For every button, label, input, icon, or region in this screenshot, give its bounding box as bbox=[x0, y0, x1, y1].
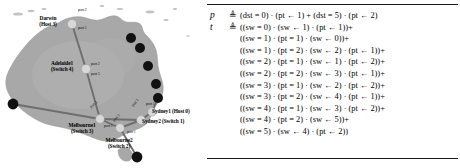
spacer-cell bbox=[226, 68, 240, 80]
port-label-sydney2-port-1: port 1 bbox=[146, 102, 155, 106]
equation-row-topology-cont: ((sw = 4) · (pt = 2) · (sw ← 5))+ bbox=[205, 114, 460, 126]
spacer-cell bbox=[226, 126, 240, 138]
topology-line-9: ((sw = 5) · (sw ← 4) · (pt ← 2)) bbox=[240, 126, 460, 138]
rule-top-divider bbox=[207, 4, 458, 5]
topology-line-0: ((sw = 0) · (sw ← 1) · (pt ← 1))+ bbox=[240, 22, 460, 34]
topology-line-5: ((sw = 3) · (pt = 1) · (sw ← 2) · (pt ← … bbox=[240, 80, 460, 92]
topology-line-7: ((sw = 4) · (pt = 1) · (sw ← 3) · (pt ← … bbox=[240, 103, 460, 115]
topology-line-4: ((sw = 2) · (pt = 2) · (sw ← 3) · (pt ← … bbox=[240, 68, 460, 80]
topology-line-6: ((sw = 3) · (pt = 2) · (sw ← 4) · (pt ← … bbox=[240, 91, 460, 103]
port-label-adelaide-port-2: port 2 bbox=[91, 62, 100, 66]
node-darwin bbox=[67, 19, 76, 28]
topology-symbol: t bbox=[205, 22, 226, 34]
map-panel: Darwin (Host 3) Adelaide1 (Switch 4) Mel… bbox=[0, 0, 205, 168]
spacer-cell bbox=[226, 103, 240, 115]
spacer-cell bbox=[226, 91, 240, 103]
node-melbourne2 bbox=[116, 124, 125, 133]
equation-row-topology-cont: ((sw = 3) · (pt = 1) · (sw ← 2) · (pt ← … bbox=[205, 80, 460, 92]
port-label-melbourne1-port-1: port 1 bbox=[104, 124, 113, 128]
spacer-cell bbox=[205, 103, 226, 115]
equation-row-topology-cont: ((sw = 2) · (pt = 2) · (sw ← 3) · (pt ← … bbox=[205, 68, 460, 80]
node-label-melbourne2: Melbourne2 (Switch 2) bbox=[94, 138, 144, 149]
spacer-cell bbox=[226, 45, 240, 57]
node-label-darwin: Darwin (Host 3) bbox=[28, 16, 68, 27]
topology-line-2: ((sw = 1) · (pt = 2) · (sw ← 2) · (pt ← … bbox=[240, 45, 460, 57]
node-label-sydney2-line1: Sydney2 bbox=[142, 118, 161, 124]
tasmania-landmass bbox=[118, 148, 132, 161]
spacer-cell bbox=[205, 68, 226, 80]
link-melbourne1-sydney2 bbox=[100, 119, 141, 120]
equation-row-policy: p ≜ (dst = 0) · (pt ← 1) + (dst = 5) · (… bbox=[205, 10, 460, 22]
port-label-darwin-port-2: port 2 bbox=[78, 8, 87, 12]
policy-defined-as: ≜ bbox=[226, 10, 240, 22]
node-label-sydney1-line1: Sydney1 bbox=[152, 108, 171, 114]
figure-root: Darwin (Host 3) Adelaide1 (Switch 4) Mel… bbox=[0, 0, 460, 168]
node-label-melbourne1: Melbourne1 (Switch 3) bbox=[58, 123, 106, 134]
policy-line-0: (dst = 0) · (pt ← 1) + (dst = 5) · (pt ←… bbox=[240, 10, 460, 22]
node-label-sydney2: Sydney2 (Switch 1) bbox=[142, 119, 204, 125]
topology-line-1: ((sw = 1) · (pt = 1) · (sw ← 0))+ bbox=[240, 33, 460, 45]
node-label-sydney2-line2: (Switch 1) bbox=[162, 118, 184, 124]
topology-line-8: ((sw = 4) · (pt = 2) · (sw ← 5))+ bbox=[240, 114, 460, 126]
equations-panel: p ≜ (dst = 0) · (pt ← 1) + (dst = 5) · (… bbox=[205, 0, 460, 168]
coast-dot-3 bbox=[143, 61, 153, 71]
spacer-cell bbox=[226, 33, 240, 45]
coast-dot-1 bbox=[126, 33, 136, 43]
equation-row-topology: t ≜ ((sw = 0) · (sw ← 1) · (pt ← 1))+ bbox=[205, 22, 460, 34]
equations-table: p ≜ (dst = 0) · (pt ← 1) + (dst = 5) · (… bbox=[205, 10, 460, 138]
equation-row-topology-cont: ((sw = 5) · (sw ← 4) · (pt ← 2)) bbox=[205, 126, 460, 138]
node-label-melbourne1-line2: (Switch 3) bbox=[71, 128, 93, 134]
port-label-darwin-port-1: port 1 bbox=[78, 26, 87, 30]
node-label-sydney1: Sydney1 (Host 0) bbox=[152, 109, 208, 115]
spacer-cell bbox=[205, 80, 226, 92]
spacer-cell bbox=[205, 126, 226, 138]
rule-bottom-divider bbox=[207, 158, 458, 159]
node-label-melbourne2-line2: (Switch 2) bbox=[108, 143, 130, 149]
policy-symbol: p bbox=[205, 10, 226, 22]
topology-line-3: ((sw = 2) · (pt = 1) · (sw ← 1) · (pt ← … bbox=[240, 56, 460, 68]
equation-row-topology-cont: ((sw = 3) · (pt = 2) · (sw ← 4) · (pt ← … bbox=[205, 91, 460, 103]
port-label-melbourne2-port-1: port 1 bbox=[127, 130, 136, 134]
equation-row-topology-cont: ((sw = 1) · (pt = 2) · (sw ← 2) · (pt ← … bbox=[205, 45, 460, 57]
node-label-adelaide1-line2: (Switch 4) bbox=[51, 66, 73, 72]
spacer-cell bbox=[205, 45, 226, 57]
coast-dot-4 bbox=[151, 79, 161, 89]
node-label-darwin-line2: (Host 3) bbox=[39, 21, 57, 27]
equation-row-topology-cont: ((sw = 2) · (pt = 1) · (sw ← 1) · (pt ← … bbox=[205, 56, 460, 68]
spacer-cell bbox=[205, 56, 226, 68]
port-label-adelaide-port-3: port 3 bbox=[91, 72, 100, 76]
node-label-adelaide1: Adelaide1 (Switch 4) bbox=[40, 61, 84, 72]
west-dot bbox=[8, 99, 19, 110]
equation-row-topology-cont: ((sw = 4) · (pt = 1) · (sw ← 3) · (pt ← … bbox=[205, 103, 460, 115]
equation-row-topology-cont: ((sw = 1) · (pt = 1) · (sw ← 0))+ bbox=[205, 33, 460, 45]
spacer-cell bbox=[205, 33, 226, 45]
spacer-cell bbox=[226, 80, 240, 92]
spacer-cell bbox=[226, 114, 240, 126]
topology-defined-as: ≜ bbox=[226, 22, 240, 34]
south-dot bbox=[132, 152, 143, 163]
spacer-cell bbox=[226, 56, 240, 68]
spacer-cell bbox=[205, 114, 226, 126]
coast-dot-2 bbox=[135, 43, 145, 53]
node-label-sydney1-line2: (Host 0) bbox=[172, 108, 190, 114]
spacer-cell bbox=[205, 91, 226, 103]
